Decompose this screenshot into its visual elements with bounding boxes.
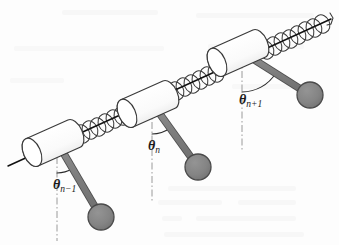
pendulum-chain-figure: θn−1 θn θn+1 — [0, 0, 339, 245]
bob-n-plus-1 — [297, 82, 323, 108]
theta-subscript-n-plus-1: n+1 — [246, 99, 262, 109]
cylinder-rotor-n — [113, 77, 183, 130]
bob-n-minus-1 — [88, 204, 114, 230]
arc-n-plus-1 — [242, 73, 276, 92]
bob-n — [185, 154, 211, 180]
cylinder-rotor-n-plus-1 — [203, 26, 273, 79]
theta-subscript-n: n — [155, 145, 160, 155]
pendulum-n-minus-1 — [18, 116, 114, 230]
angle-label-n-minus-1: θn−1 — [53, 177, 76, 193]
pendulum-n-plus-1 — [203, 26, 323, 108]
theta-subscript-n-minus-1: n−1 — [60, 184, 76, 194]
cylinder-rotor-n-minus-1 — [18, 116, 88, 169]
angle-label-n: θn — [148, 138, 160, 154]
figure-canvas — [0, 0, 339, 245]
angle-label-n-plus-1: θn+1 — [239, 92, 262, 108]
